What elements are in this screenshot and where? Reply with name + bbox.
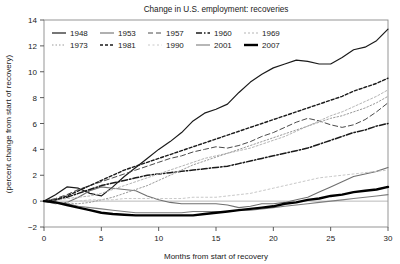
x-tick-label: 20	[269, 234, 278, 243]
x-tick-label: 5	[99, 234, 104, 243]
y-tick-label: 14	[28, 16, 37, 25]
legend-label-1990: 1990	[166, 41, 184, 50]
chart-container: Change in U.S. employment: recoveries (p…	[0, 0, 400, 264]
employment-recoveries-line-chart: Change in U.S. employment: recoveries (p…	[0, 0, 400, 264]
legend-label-1960: 1960	[214, 29, 232, 38]
x-tick-label: 25	[326, 234, 335, 243]
x-tick-label: 30	[384, 234, 393, 243]
y-tick-label: 4	[33, 145, 38, 154]
legend-label-1969: 1969	[262, 29, 280, 38]
legend-label-1957: 1957	[166, 29, 184, 38]
chart-legend: 1948195319571960196919731981199020012007	[45, 21, 300, 50]
x-tick-label: 15	[212, 234, 221, 243]
x-tick-label: 10	[154, 234, 163, 243]
legend-label-1973: 1973	[70, 41, 88, 50]
y-tick-label: 12	[28, 42, 37, 51]
x-tick-label: 0	[42, 234, 47, 243]
chart-title: Change in U.S. employment: recoveries	[144, 5, 289, 14]
y-tick-label: 10	[28, 68, 37, 77]
legend-label-1953: 1953	[118, 29, 136, 38]
legend-label-1948: 1948	[70, 29, 88, 38]
x-axis-label: Months from start of recovery	[164, 252, 268, 261]
y-tick-label: −2	[28, 223, 38, 232]
legend-label-2001: 2001	[214, 41, 232, 50]
y-tick-label: 8	[33, 94, 38, 103]
legend-label-1981: 1981	[118, 41, 136, 50]
y-axis-label: (percent change from start of recovery)	[4, 55, 13, 194]
y-tick-label: 6	[33, 120, 38, 129]
y-tick-label: 2	[33, 171, 38, 180]
legend-label-2007: 2007	[262, 41, 280, 50]
y-tick-label: 0	[33, 197, 38, 206]
